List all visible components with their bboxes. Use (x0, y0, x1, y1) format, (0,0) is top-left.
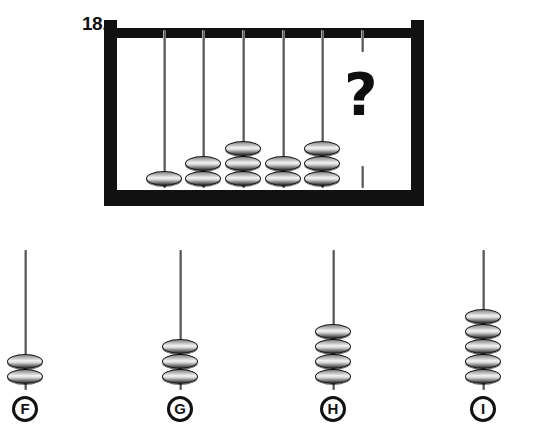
answer-i-bead-4[interactable] (465, 324, 501, 339)
frame-top-bar (112, 28, 417, 38)
answer-g-bead-1[interactable] (162, 369, 198, 384)
abacus-rod-5-bead-3[interactable] (304, 141, 340, 156)
answer-g-bead-2[interactable] (162, 354, 198, 369)
abacus-rod-5-bead-2[interactable] (304, 156, 340, 171)
answer-i-bead-5[interactable] (465, 309, 501, 324)
abacus-rod-6-bottom-stub[interactable] (361, 166, 364, 188)
abacus-rod-6-top-stub[interactable] (361, 30, 364, 52)
answer-i-bead-1[interactable] (465, 369, 501, 384)
answer-f-bead-1[interactable] (7, 369, 43, 384)
abacus-rod-3-bead-1[interactable] (225, 171, 261, 186)
question-stage: 18. ? FGHI (0, 0, 541, 434)
answer-i-bead-2[interactable] (465, 354, 501, 369)
answer-h-bead-1[interactable] (315, 369, 351, 384)
abacus-rod-3-bead-2[interactable] (225, 156, 261, 171)
abacus-rod-2-bead-1[interactable] (185, 171, 221, 186)
abacus-rod-4-bead-2[interactable] (265, 156, 301, 171)
answer-label-i[interactable]: I (470, 396, 496, 422)
answer-h-bead-3[interactable] (315, 339, 351, 354)
frame-base-bar (104, 190, 424, 206)
abacus-rod-5-bead-1[interactable] (304, 171, 340, 186)
answer-h-bead-2[interactable] (315, 354, 351, 369)
abacus-rod-1-bead-1[interactable] (146, 171, 182, 186)
abacus-rod-4-bead-1[interactable] (265, 171, 301, 186)
answer-f-bead-2[interactable] (7, 354, 43, 369)
answer-label-h[interactable]: H (320, 396, 346, 422)
abacus-rod-3-bead-3[interactable] (225, 141, 261, 156)
answer-label-g[interactable]: G (167, 396, 193, 422)
abacus-rod-2-bead-2[interactable] (185, 156, 221, 171)
answer-h-bead-4[interactable] (315, 324, 351, 339)
question-mark-icon: ? (344, 66, 378, 124)
abacus-rod-1[interactable] (163, 30, 166, 188)
answer-g-bead-3[interactable] (162, 339, 198, 354)
answer-i-bead-3[interactable] (465, 339, 501, 354)
answer-label-f[interactable]: F (12, 396, 38, 422)
frame-left-post (104, 20, 117, 206)
frame-right-post (411, 20, 424, 206)
